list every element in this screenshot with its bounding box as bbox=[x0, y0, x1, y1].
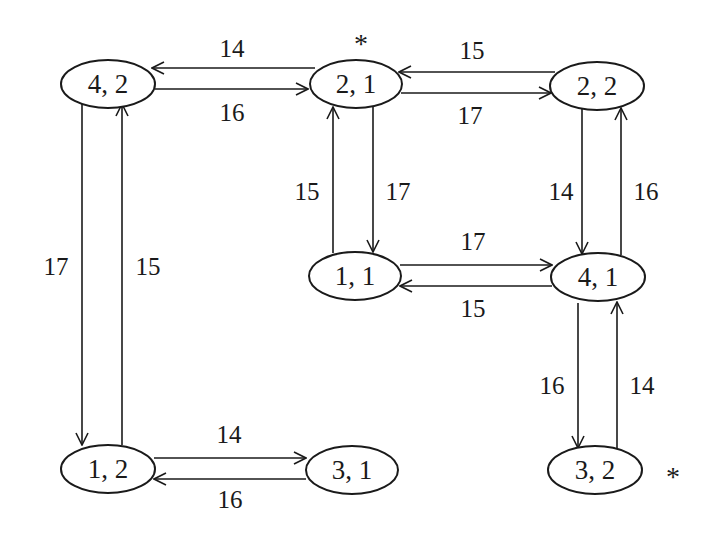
edge-weight: 16 bbox=[218, 486, 243, 513]
edge-42-to-12: 17 bbox=[44, 104, 83, 445]
edge-11-to-21: 15 bbox=[295, 107, 334, 253]
node-label: 3, 2 bbox=[575, 455, 616, 485]
edge-weight: 15 bbox=[136, 253, 161, 280]
edge-32-to-41: 14 bbox=[617, 302, 655, 448]
edge-22-to-21: 15 bbox=[399, 37, 555, 73]
node-1-2: 1, 2 bbox=[61, 445, 155, 493]
edge-weight: 16 bbox=[540, 372, 565, 399]
edge-weight: 15 bbox=[461, 295, 486, 322]
edge-42-to-21: 16 bbox=[155, 89, 308, 126]
node-4-1: 4, 1 bbox=[551, 253, 645, 301]
edge-12-to-31: 14 bbox=[154, 421, 306, 459]
edge-weight: 17 bbox=[458, 102, 483, 129]
node-label: 2, 2 bbox=[577, 71, 618, 101]
edge-weight: 14 bbox=[549, 178, 575, 205]
edge-41-to-11: 15 bbox=[400, 286, 552, 322]
edge-weight: 16 bbox=[220, 99, 245, 126]
edge-21-to-11: 17 bbox=[373, 107, 411, 252]
edge-11-to-41: 17 bbox=[400, 228, 552, 266]
edge-weight: 14 bbox=[220, 35, 246, 62]
edge-22-to-41: 14 bbox=[549, 108, 583, 254]
node-label: 4, 1 bbox=[578, 262, 619, 292]
edge-41-to-22: 16 bbox=[621, 108, 659, 255]
edge-weight: 15 bbox=[295, 178, 320, 205]
node-label: 1, 2 bbox=[88, 454, 129, 484]
edge-weight: 17 bbox=[461, 228, 486, 255]
state-graph-diagram: 14 16 15 17 15 17 14 16 17 15 bbox=[0, 0, 714, 540]
edge-weight: 17 bbox=[44, 253, 69, 280]
node-label: 1, 1 bbox=[335, 261, 376, 291]
node-label: 3, 1 bbox=[332, 455, 373, 485]
edge-weight: 16 bbox=[634, 178, 659, 205]
edge-31-to-12: 16 bbox=[154, 479, 306, 513]
edge-12-to-42: 15 bbox=[122, 104, 161, 445]
edge-weight: 17 bbox=[386, 178, 411, 205]
edge-weight: 14 bbox=[217, 421, 243, 448]
node-label: 2, 1 bbox=[336, 69, 377, 99]
edge-21-to-22: 17 bbox=[401, 93, 551, 129]
edge-weight: 14 bbox=[630, 372, 656, 399]
node-2-1: 2, 1 bbox=[310, 60, 402, 108]
star-marker-3-2: * bbox=[666, 461, 680, 492]
node-3-1: 3, 1 bbox=[306, 446, 398, 494]
node-4-2: 4, 2 bbox=[61, 60, 155, 108]
edge-weight: 15 bbox=[460, 37, 485, 64]
node-2-2: 2, 2 bbox=[550, 62, 644, 110]
node-3-2: 3, 2 bbox=[548, 446, 642, 494]
edge-41-to-32: 16 bbox=[540, 303, 579, 448]
node-label: 4, 2 bbox=[88, 69, 129, 99]
star-marker-2-1: * bbox=[354, 28, 368, 59]
edge-21-to-42: 14 bbox=[152, 35, 315, 69]
node-1-1: 1, 1 bbox=[309, 252, 401, 300]
